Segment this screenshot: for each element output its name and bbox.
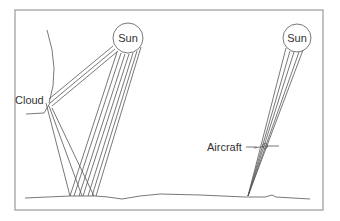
cloud-label: Cloud: [15, 94, 44, 106]
ray-sun-direct: [88, 53, 133, 196]
ground-line: [25, 194, 310, 199]
ray-sun-to-cloud: [49, 46, 113, 99]
ray-sun-to-cloud: [50, 49, 115, 103]
ray-cloud-to-ground: [46, 103, 70, 196]
sun-left-label: Sun: [118, 32, 138, 44]
cloud-outline: [47, 30, 54, 103]
ray-sun-to-ground: [248, 52, 294, 196]
sunlight-diagram: Sun Cloud Sun Aircraft: [0, 0, 340, 221]
ray-sun-direct: [83, 54, 129, 196]
ray-sun-to-ground: [248, 50, 303, 196]
diagram-frame: [15, 10, 323, 210]
right-scene: Sun Aircraft: [207, 24, 311, 196]
ray-sun-to-ground: [248, 51, 290, 196]
aircraft-label: Aircraft: [207, 141, 242, 153]
ray-sun-direct: [79, 54, 125, 196]
left-scene: Sun Cloud: [15, 23, 143, 196]
ray-sun-direct: [70, 52, 117, 196]
sun-right-label: Sun: [287, 32, 307, 44]
ray-sun-to-ground: [248, 52, 299, 196]
ray-sun-to-ground: [248, 48, 286, 196]
ray-cloud-to-ground: [49, 106, 82, 196]
